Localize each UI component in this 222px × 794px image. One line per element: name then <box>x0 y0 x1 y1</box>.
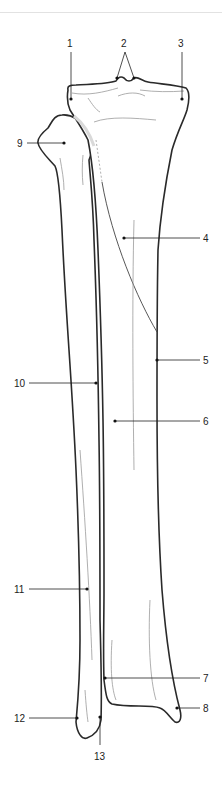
label-10: 10 <box>14 378 26 389</box>
label-9: 9 <box>17 138 23 149</box>
label-5: 5 <box>203 355 209 366</box>
label-12: 12 <box>14 713 26 724</box>
label-1: 1 <box>67 38 73 49</box>
label-3: 3 <box>178 38 184 49</box>
label-11: 11 <box>14 584 25 595</box>
label-13: 13 <box>94 751 106 762</box>
tibia-fibula-diagram: 1 2 3 4 5 6 7 8 9 10 11 12 13 <box>0 0 222 794</box>
label-6: 6 <box>203 416 209 427</box>
fibula-outline <box>38 115 102 738</box>
label-8: 8 <box>203 703 209 714</box>
label-2: 2 <box>121 38 127 49</box>
label-7: 7 <box>203 673 209 684</box>
label-4: 4 <box>203 233 209 244</box>
